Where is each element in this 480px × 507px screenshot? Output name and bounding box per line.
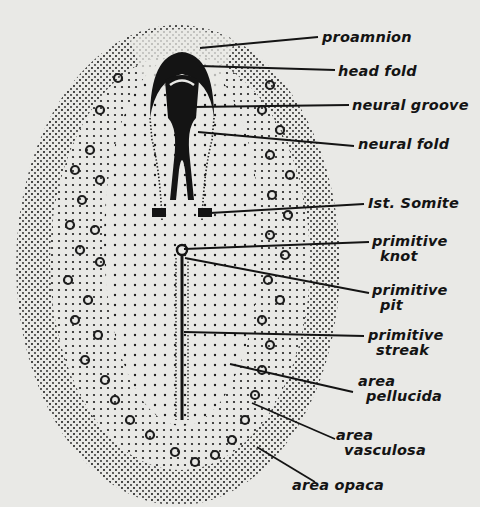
label-line: neural fold	[358, 137, 449, 152]
label-line: primitive	[372, 234, 448, 249]
label-line: Ist. Somite	[368, 196, 459, 211]
label-area-opaca: area opaca	[292, 478, 384, 493]
label-line: pit	[372, 298, 448, 313]
label-first-somite: Ist. Somite	[368, 196, 459, 211]
label-primitive-pit: primitivepit	[372, 283, 448, 313]
label-line: neural groove	[352, 98, 469, 113]
label-area-vasculosa: areavasculosa	[336, 428, 426, 458]
label-head-fold: head fold	[338, 64, 417, 79]
label-neural-fold: neural fold	[358, 137, 449, 152]
label-line: pellucida	[358, 389, 442, 404]
label-line: knot	[372, 249, 448, 264]
label-line: area	[336, 428, 426, 443]
label-line: area	[358, 374, 442, 389]
label-line: primitive	[368, 328, 444, 343]
label-proamnion: proamnion	[322, 30, 412, 45]
label-primitive-streak: primitivestreak	[368, 328, 444, 358]
label-line: head fold	[338, 64, 417, 79]
label-neural-groove: neural groove	[352, 98, 469, 113]
label-primitive-knot: primitiveknot	[372, 234, 448, 264]
label-line: vasculosa	[336, 443, 426, 458]
label-line: streak	[368, 343, 444, 358]
label-area-pellucida: areapellucida	[358, 374, 442, 404]
label-line: primitive	[372, 283, 448, 298]
label-line: proamnion	[322, 30, 412, 45]
label-line: area opaca	[292, 478, 384, 493]
